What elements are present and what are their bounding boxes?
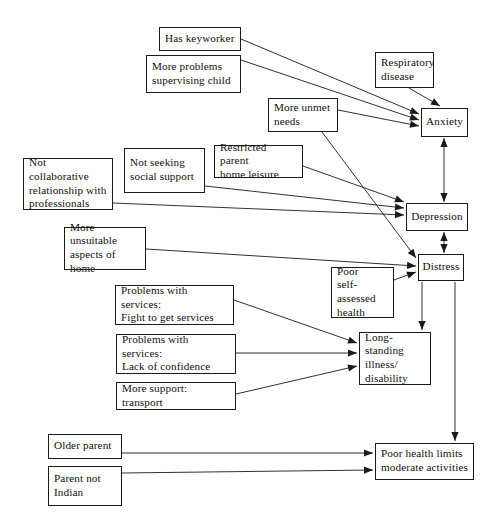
node-poor-health-limits[interactable]: Poor health limits moderate activities <box>375 443 474 480</box>
edge-poor-self-assessed-to-distress <box>394 272 416 280</box>
node-depression[interactable]: Depression <box>406 203 468 231</box>
edge-depression-distress-bidirectional <box>440 232 447 253</box>
edge-transport-to-illness <box>236 365 357 394</box>
edge-respiratory-to-anxiety <box>409 88 440 106</box>
node-parent-not-indian[interactable]: Parent not Indian <box>48 466 122 506</box>
edge-parent-not-indian-to-poor-health <box>122 467 373 474</box>
node-more-problems[interactable]: More problems supervising child <box>146 55 241 93</box>
node-lack-of-confidence[interactable]: Problems with services: Lack of confiden… <box>116 334 236 374</box>
node-more-support-transport[interactable]: More support: transport <box>116 382 236 410</box>
node-fight-to-get-services[interactable]: Problems with services: Fight to get ser… <box>115 285 234 325</box>
edge-distress-to-illness <box>418 282 425 330</box>
edge-distress-to-poor-health <box>451 282 458 441</box>
node-long-standing-illness[interactable]: Long-standing illness/ disability <box>359 332 431 385</box>
node-anxiety[interactable]: Anxiety <box>421 108 468 137</box>
node-restricted-leisure[interactable]: Restricted parent home leisure <box>214 145 303 178</box>
path-diagram: Has keyworkerMore problems supervising c… <box>0 0 493 529</box>
edge-unmet-needs-to-anxiety <box>338 110 419 128</box>
node-more-unmet-needs[interactable]: More unmet needs <box>268 98 338 132</box>
edge-not-collaborative-to-depression <box>113 203 404 218</box>
edge-not-seeking-to-depression <box>205 186 404 211</box>
node-not-seeking-support[interactable]: Not seeking social support <box>124 148 205 193</box>
edge-lack-confidence-to-illness <box>236 349 357 356</box>
edge-anxiety-depression-bidirectional <box>440 138 447 202</box>
node-distress[interactable]: Distress <box>418 254 464 281</box>
edge-older-parent-to-poor-health <box>122 449 373 456</box>
node-has-keyworker[interactable]: Has keyworker <box>159 27 241 51</box>
edge-restricted-leisure-to-depression <box>303 166 404 202</box>
node-not-collaborative[interactable]: Not collaborative relationship with prof… <box>23 158 113 210</box>
edge-unmet-needs-to-distress <box>322 132 416 258</box>
node-respiratory-disease[interactable]: Respiratory disease <box>375 52 434 88</box>
node-poor-self-assessed[interactable]: Poor self-assessed health <box>331 267 394 318</box>
node-older-parent[interactable]: Older parent <box>48 434 122 459</box>
node-more-unsuitable-home[interactable]: More unsuitable aspects of home <box>64 227 146 270</box>
